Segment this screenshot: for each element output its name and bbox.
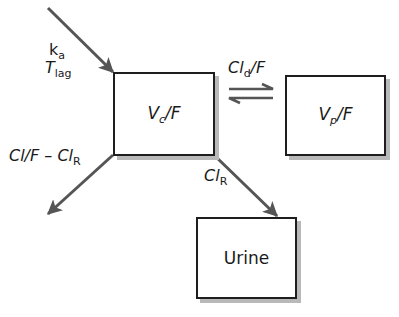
central-compartment: Vc/F <box>113 72 215 156</box>
peripheral-compartment: Vp/F <box>285 75 386 156</box>
tlag-label: Tlag <box>45 58 72 80</box>
central-compartment-label: Vc/F <box>147 103 180 126</box>
nonrenal-clearance-label: Cl/F – ClR <box>9 146 81 168</box>
renal-clearance-label: ClR <box>204 166 227 188</box>
equilibrium-arrows <box>229 84 273 103</box>
urine-compartment-label: Urine <box>224 248 269 268</box>
urine-compartment: Urine <box>196 217 297 299</box>
peripheral-compartment-label: Vp/F <box>318 104 352 127</box>
distribution-clearance-label: Cld/F <box>228 58 265 80</box>
